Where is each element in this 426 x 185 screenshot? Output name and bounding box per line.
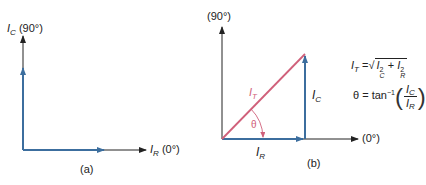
b-ic-subscript: C <box>315 95 321 104</box>
diagram-a <box>23 36 146 150</box>
ic-subscript: C <box>10 28 16 37</box>
ic-label: IC <box>312 89 321 101</box>
f1-plus: + <box>388 59 394 71</box>
f2-exp: −1 <box>387 89 395 96</box>
magnitude-formula: IT =√I2C + I2R <box>351 58 407 80</box>
theta-label: θ <box>251 120 257 130</box>
f2-equals: = <box>362 89 368 101</box>
f1-term2-sub: R <box>400 73 405 79</box>
f1-lhs-sub: T <box>354 65 359 74</box>
f2-numerator: IC <box>404 84 417 97</box>
ir-subscript: R <box>153 149 159 158</box>
ic-angle: (90°) <box>19 22 43 34</box>
f1-term2-supsub: 2R <box>400 67 405 80</box>
f1-term1-supsub: 2C <box>380 67 385 80</box>
f2-den-sub: R <box>409 102 415 111</box>
ir-label: IR <box>256 146 265 158</box>
b-it-vector <box>222 54 305 139</box>
b-ir-subscript: R <box>259 152 265 161</box>
it-subscript: T <box>252 92 257 101</box>
ir-angle: (0°) <box>162 143 180 155</box>
f2-close-paren: ) <box>418 83 426 110</box>
diagram-b <box>222 27 358 139</box>
f2-theta: θ <box>353 89 359 101</box>
b-caption: (b) <box>307 158 320 169</box>
b-x-axis-label: (0°) <box>362 133 380 144</box>
angle-formula: θ = tan−1(ICIR) <box>353 84 426 109</box>
a-x-axis-label: IR (0°) <box>150 144 180 155</box>
a-y-axis-label: IC (90°) <box>7 23 43 34</box>
a-caption: (a) <box>80 164 93 175</box>
f2-func: tan <box>372 89 387 101</box>
f2-denominator: IR <box>404 97 417 109</box>
b-y-axis-label: (90°) <box>207 11 231 22</box>
f2-open-paren: ( <box>395 83 403 110</box>
it-label: IT <box>249 87 257 98</box>
sqrt-radicand: I2C + I2R <box>375 58 408 80</box>
f2-num-sub: C <box>409 88 415 97</box>
f2-fraction: ICIR <box>404 84 417 109</box>
f1-term1-sub: C <box>380 73 385 79</box>
